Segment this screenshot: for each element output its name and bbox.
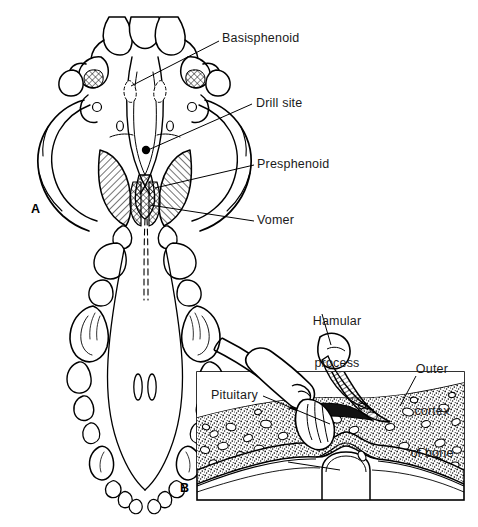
label-outer-cortex-line2: cortex xyxy=(398,404,466,418)
left-zygomatic-arch xyxy=(38,100,97,231)
hard-palate xyxy=(108,250,183,490)
panel-letter-a: A xyxy=(31,202,40,216)
right-zygomatic-arch xyxy=(192,100,251,231)
anatomical-figure: Basisphenoid Drill site Presphenoid Vome… xyxy=(0,0,478,527)
label-outer-cortex-line3: of bone xyxy=(398,446,466,460)
label-hamular-process-line2: process xyxy=(300,356,374,370)
left-bulla-region xyxy=(59,57,108,123)
label-pituitary: Pituitary xyxy=(211,388,258,402)
label-hamular-process-line1: Hamular xyxy=(300,314,374,328)
label-basisphenoid: Basisphenoid xyxy=(222,31,299,45)
sphenoid-body xyxy=(124,57,166,300)
label-hamular-process: Hamular process xyxy=(300,286,374,398)
panel-letter-b: B xyxy=(180,481,189,495)
label-outer-cortex-of-bone: Outer cortex of bone xyxy=(398,334,466,488)
right-bulla-region xyxy=(181,57,230,123)
label-drill-site: Drill site xyxy=(256,96,302,110)
skull-base-foramina xyxy=(110,121,180,137)
label-outer-cortex-line1: Outer xyxy=(398,362,466,376)
label-presphenoid: Presphenoid xyxy=(257,157,329,171)
label-vomer: Vomer xyxy=(257,213,294,227)
